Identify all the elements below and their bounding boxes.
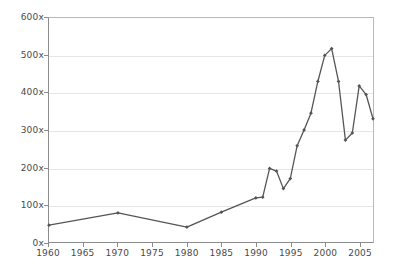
x-axis-tick-mark <box>117 243 118 247</box>
data-point-marker <box>254 196 258 200</box>
plot-area <box>48 17 374 243</box>
x-axis-tick-label: 1970 <box>106 248 130 258</box>
data-point-marker <box>371 117 375 121</box>
x-axis-tick-label: 1995 <box>279 248 303 258</box>
x-axis-tick-label: 1960 <box>36 248 60 258</box>
y-axis-tick-label: 200x <box>21 163 44 173</box>
data-point-marker <box>275 169 279 173</box>
x-axis-tick-mark <box>360 243 361 247</box>
data-point-marker <box>185 225 189 229</box>
x-axis-tick-mark <box>187 243 188 247</box>
y-axis-tick-label: 400x <box>21 87 44 97</box>
data-point-marker <box>337 80 341 84</box>
x-axis-tick-mark <box>256 243 257 247</box>
data-point-marker <box>219 210 223 214</box>
data-point-marker <box>295 144 299 148</box>
data-point-marker <box>47 223 51 227</box>
x-axis-tick-label: 2005 <box>348 248 372 258</box>
data-point-marker <box>302 128 306 132</box>
x-axis-tick-mark <box>291 243 292 247</box>
x-axis-tick-label: 1985 <box>210 248 234 258</box>
x-axis-tick-mark <box>325 243 326 247</box>
series-line <box>49 49 373 227</box>
y-axis-tick-label: 300x <box>21 125 44 135</box>
data-series-line <box>49 18 373 242</box>
x-axis-tick-mark <box>48 243 49 247</box>
data-point-marker <box>261 195 265 199</box>
data-point-marker <box>268 167 272 171</box>
data-point-marker <box>309 111 313 115</box>
chart-container: 600x500x400x300x200x100x0x 1960196519701… <box>0 0 404 278</box>
x-axis-tick-label: 1965 <box>71 248 95 258</box>
data-point-marker <box>116 211 120 215</box>
x-axis-tick-label: 1975 <box>140 248 164 258</box>
y-axis-tick-label: 600x <box>21 12 44 22</box>
x-axis-tick-mark <box>152 243 153 247</box>
y-axis-tick-label: 0x <box>33 238 44 248</box>
x-axis-tick-label: 1990 <box>244 248 268 258</box>
x-axis-tick-label: 2000 <box>314 248 338 258</box>
y-axis-tick-label: 500x <box>21 50 44 60</box>
y-axis-tick-labels: 600x500x400x300x200x100x0x <box>0 0 44 278</box>
data-point-marker <box>316 80 320 84</box>
x-axis-tick-mark <box>83 243 84 247</box>
y-axis-tick-label: 100x <box>21 200 44 210</box>
x-axis-tick-mark <box>221 243 222 247</box>
x-axis-tick-label: 1980 <box>175 248 199 258</box>
